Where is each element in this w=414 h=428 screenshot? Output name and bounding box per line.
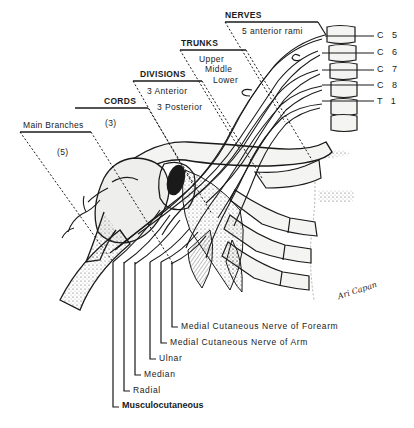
- branch-ulnar: Ulnar: [159, 354, 182, 363]
- muscles: [182, 170, 243, 292]
- nerves-detail: 5 anterior rami: [242, 27, 303, 36]
- cords-count: (3): [105, 119, 117, 128]
- branch-radial: Radial: [133, 386, 161, 395]
- header-cords: CORDS: [104, 97, 136, 106]
- trunk-lower: Lower: [213, 76, 238, 85]
- root-c8: C 8: [377, 81, 400, 90]
- header-main-branches: Main Branches: [23, 121, 84, 130]
- root-c5: C 5: [377, 31, 400, 40]
- divisions-posterior: 3 Posterior: [157, 103, 203, 112]
- header-nerves: NERVES: [225, 11, 262, 20]
- root-c6: C 6: [377, 48, 400, 57]
- root-t1: T 1: [377, 97, 399, 106]
- trunk-upper: Upper: [199, 55, 224, 64]
- divisions-anterior: 3 Anterior: [147, 87, 187, 96]
- trunk-middle: Middle: [205, 65, 232, 74]
- root-c7: C 7: [377, 65, 400, 74]
- branch-musculocutaneous: Musculocutaneous: [122, 401, 204, 410]
- branch-medial-cutaneous-forearm: Medial Cutaneous Nerve of Forearm: [181, 322, 338, 331]
- branch-median: Median: [144, 370, 175, 379]
- shoulder-joint: [60, 158, 195, 310]
- vertebrae: [327, 26, 357, 132]
- brachial-plexus-diagram: NERVES 5 anterior rami TRUNKS Upper Midd…: [0, 0, 414, 428]
- header-trunks: TRUNKS: [181, 39, 218, 48]
- main-branches-count: (5): [57, 148, 69, 157]
- branch-medial-cutaneous-arm: Medial Cutaneous Nerve of Arm: [170, 338, 308, 347]
- header-divisions: DIVISIONS: [140, 70, 186, 79]
